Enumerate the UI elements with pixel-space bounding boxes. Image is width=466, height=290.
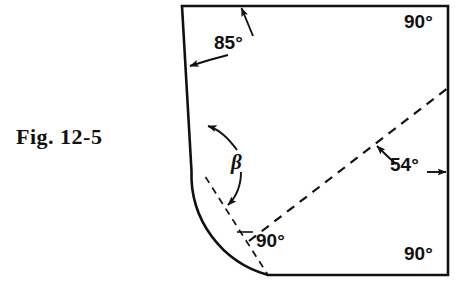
- figure-caption: Fig. 12-5: [16, 124, 102, 150]
- angle-label-54: 54°: [390, 155, 419, 174]
- leader-arrow-to-top-edge: [242, 8, 254, 36]
- angle-label-beta: β: [231, 152, 242, 173]
- angle-label-bottom-right-90: 90°: [404, 244, 433, 263]
- beta-arc-to-dashed-radius: [228, 172, 241, 205]
- figure-container: Fig. 12-5 85° 90° β 54° 90° 90°: [0, 0, 466, 290]
- angle-label-85: 85°: [214, 33, 243, 52]
- leader-arrow-to-left-edge: [190, 55, 228, 66]
- angle-label-top-right-90: 90°: [404, 12, 433, 31]
- beta-arc-to-curve: [208, 126, 237, 150]
- angle-label-perpendicular-90: 90°: [256, 231, 285, 250]
